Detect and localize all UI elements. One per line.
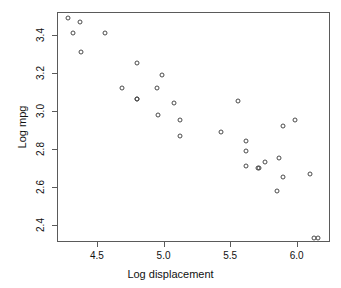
y-tick-label-2.8: 2.8 [36,142,46,156]
x-tick-4.5 [97,242,98,247]
data-point [316,236,321,241]
data-point [177,118,182,123]
data-point [262,160,267,165]
y-tick-label-2.4: 2.4 [36,218,46,232]
data-point [160,72,165,77]
y-tick-2.4 [52,225,57,226]
x-tick-5.5 [230,242,231,247]
data-point [154,86,159,91]
data-point [274,188,279,193]
data-point [277,156,282,161]
y-tick-label-3.2: 3.2 [36,66,46,80]
y-axis-title: Log mpg [16,106,28,149]
x-axis-title: Log displacement [0,268,341,280]
data-point [281,124,286,129]
data-point [77,19,82,24]
x-tick-label-5.5: 5.5 [223,251,237,261]
data-point [281,175,286,180]
scatter-plot-figure: 4.55.05.56.0 2.42.62.83.03.23.4 Log disp… [0,0,341,288]
x-tick-label-4.5: 4.5 [90,251,104,261]
y-tick-2.8 [52,149,57,150]
data-point [134,97,139,102]
data-point [65,15,70,20]
data-point [102,30,107,35]
data-point [244,139,249,144]
data-point [70,30,75,35]
data-point [177,133,182,138]
data-point [172,101,177,106]
y-tick-3.4 [52,35,57,36]
data-point [257,165,262,170]
data-point [134,61,139,66]
plot-area [57,12,330,242]
x-tick-label-6.0: 6.0 [290,251,304,261]
data-point [293,118,298,123]
x-tick-5.0 [164,242,165,247]
data-point [244,163,249,168]
x-tick-6.0 [297,242,298,247]
data-point [244,148,249,153]
data-point [308,171,313,176]
data-point [218,129,223,134]
data-point [78,49,83,54]
y-tick-label-3.4: 3.4 [36,28,46,42]
y-tick-3.2 [52,73,57,74]
y-tick-label-2.6: 2.6 [36,180,46,194]
y-tick-label-3.0: 3.0 [36,104,46,118]
data-point [120,86,125,91]
data-point [156,112,161,117]
data-point [236,99,241,104]
y-tick-2.6 [52,187,57,188]
x-tick-label-5.0: 5.0 [157,251,171,261]
y-tick-3.0 [52,111,57,112]
